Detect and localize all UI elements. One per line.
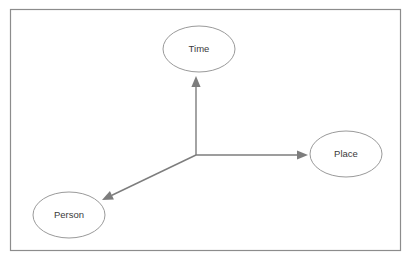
node-time[interactable]: Time <box>163 26 235 72</box>
diagram-svg: Time Place Person <box>0 0 409 260</box>
arrowhead-place-icon <box>297 150 308 159</box>
arrowhead-time-icon <box>191 76 200 87</box>
connector-hub-to-time[interactable] <box>191 76 200 155</box>
connector-hub-to-person[interactable] <box>102 155 196 200</box>
connector-hub-to-place[interactable] <box>196 150 308 159</box>
node-time-label: Time <box>189 43 210 54</box>
connector-line-person <box>112 155 196 195</box>
node-person[interactable]: Person <box>33 192 105 238</box>
node-place-label: Place <box>334 148 358 159</box>
node-person-label: Person <box>54 209 84 220</box>
diagram-canvas: Time Place Person <box>0 0 409 260</box>
node-place[interactable]: Place <box>310 131 382 177</box>
